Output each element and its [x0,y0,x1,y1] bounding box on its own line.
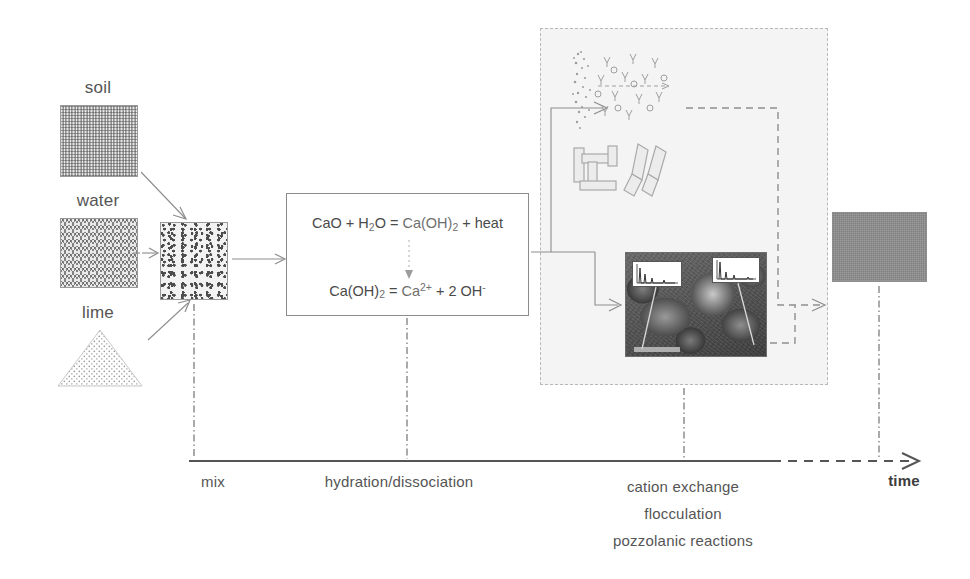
timeline-tick-pozzolanic: pozzolanic reactions [613,532,753,549]
timeline-tick-flocculation: flocculation [644,505,721,522]
timeline-tick-mix: mix [201,473,225,490]
timeline-axis [0,0,970,579]
time-axis-label: time [888,472,920,489]
diagram-canvas: soil water lime [0,0,970,579]
timeline-tick-cation-exchange: cation exchange [627,478,739,495]
timeline-tick-hydration: hydration/dissociation [325,473,474,490]
